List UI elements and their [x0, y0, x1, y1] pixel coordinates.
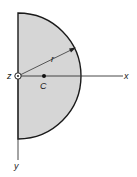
diagram-svg: r C x y z — [0, 0, 137, 177]
centroid-dot — [42, 74, 46, 78]
centroid-label: C — [40, 81, 47, 91]
x-axis-label: x — [123, 71, 129, 81]
y-axis-label: y — [13, 161, 19, 171]
z-axis-label: z — [6, 71, 12, 81]
semicircle-diagram: r C x y z — [0, 0, 137, 177]
